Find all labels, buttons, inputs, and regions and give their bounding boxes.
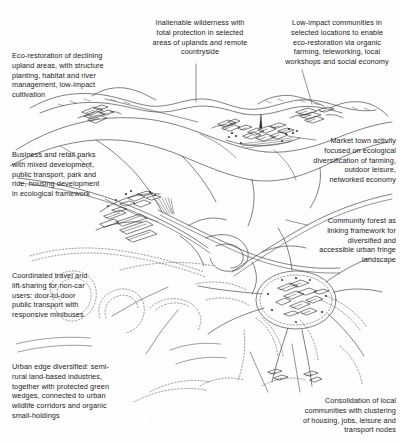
annotation-business-retail-parks: Business and retail parks with mixed dev…: [12, 150, 142, 199]
satellite-settlements: [268, 369, 322, 382]
annotation-eco-restoration: Eco-restoration of declining upland area…: [12, 51, 152, 100]
annotation-low-impact-communities: Low-impact communities in selected locat…: [276, 18, 398, 67]
annotation-community-forest: Community forest as linking framework fo…: [300, 216, 396, 265]
upland-settlement-right: [290, 107, 343, 123]
annotation-urban-edge-diversified: Urban edge diversified: semi- rural land…: [12, 362, 144, 421]
annotation-inalienable-wilderness: Inalienable wilderness with total protec…: [141, 18, 259, 57]
low-impact-community-cluster: [212, 119, 240, 131]
annotation-coordinated-travel: Coordinated travel and lift-sharing for …: [12, 271, 120, 320]
upland-settlement-left: [78, 105, 121, 123]
lower-field-edges: [16, 337, 226, 364]
town-core: [256, 271, 336, 329]
figure-canvas: Eco-restoration of declining upland area…: [0, 0, 400, 442]
annotation-consolidation-local-communities: Consolidation of local communities with …: [256, 396, 396, 435]
market-town: [226, 114, 300, 148]
annotation-market-town-activity: Market town activity focused on ecologic…: [300, 136, 396, 185]
